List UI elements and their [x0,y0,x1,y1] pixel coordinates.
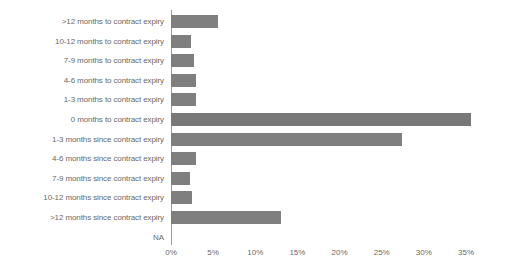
bar-row: 7-9 months to contract expiry [0,51,505,70]
bar [171,35,191,48]
x-tick-label: 20% [320,247,360,259]
category-label: 0 months to contract expiry [0,110,164,129]
bar-row: 7-9 months since contract expiry [0,169,505,188]
x-tick-label: 10% [235,247,275,259]
bar [171,15,218,28]
bar-row: 4-6 months to contract expiry [0,71,505,90]
bar [171,152,196,165]
bar-chart: >12 months to contract expiry10-12 month… [0,0,505,273]
bar-row: >12 months to contract expiry [0,12,505,31]
bar-row: 0 months to contract expiry [0,110,505,129]
category-label: 4-6 months since contract expiry [0,149,164,168]
category-label: 1-3 months to contract expiry [0,90,164,109]
bar-row: 1-3 months to contract expiry [0,90,505,109]
x-tick-label: 30% [404,247,444,259]
bar [171,191,192,204]
category-label: 10-12 months to contract expiry [0,32,164,51]
bar [171,133,402,146]
x-tick-label: 15% [277,247,317,259]
bar [171,54,194,67]
x-tick-label: 35% [446,247,486,259]
x-tick-label: 25% [362,247,402,259]
bar [171,211,281,224]
bar-row: >12 months since contract expiry [0,208,505,227]
category-label: 1-3 months since contract expiry [0,130,164,149]
bar [171,172,190,185]
category-label: 7-9 months since contract expiry [0,169,164,188]
category-label: 10-12 months since contract expiry [0,188,164,207]
category-label: >12 months since contract expiry [0,208,164,227]
bar [171,93,196,106]
category-label: NA [0,228,164,247]
bar-row: 4-6 months since contract expiry [0,149,505,168]
x-tick-label: 0% [151,247,191,259]
bar-row: 10-12 months since contract expiry [0,188,505,207]
bar-row: 10-12 months to contract expiry [0,32,505,51]
bar-row: 1-3 months since contract expiry [0,130,505,149]
x-tick-label: 5% [193,247,233,259]
bar [171,113,471,126]
x-axis-tick-labels: 0%5%10%15%20%25%30%35% [0,247,505,261]
bar-row: NA [0,228,505,247]
category-label: 4-6 months to contract expiry [0,71,164,90]
category-label: >12 months to contract expiry [0,12,164,31]
bar [171,74,196,87]
category-label: 7-9 months to contract expiry [0,51,164,70]
